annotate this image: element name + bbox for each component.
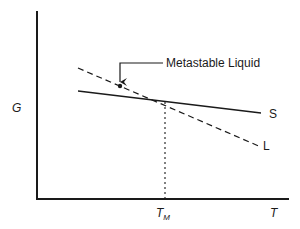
gibbs-energy-diagram: Metastable Liquid G S L T TM [0,0,300,229]
solid-curve-s [78,91,261,113]
melting-temp-subscript: M [163,213,170,222]
melting-temp-label: TM [156,206,170,222]
annotation-label: Metastable Liquid [166,56,260,70]
metastable-point [118,84,122,88]
x-axis-label: T [270,206,279,220]
annotation-leader-line [120,63,163,82]
curve-label-l: L [263,139,270,153]
y-axis-label: G [12,101,21,115]
curve-label-s: S [269,107,277,121]
liquid-curve-l [78,68,261,147]
